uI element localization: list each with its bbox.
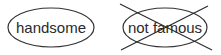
- item-handsome: handsome: [8, 8, 94, 47]
- item-label: handsome: [16, 19, 86, 36]
- item-not-famous: not famous: [120, 4, 212, 50]
- diagram-canvas: handsome not famous: [0, 0, 221, 55]
